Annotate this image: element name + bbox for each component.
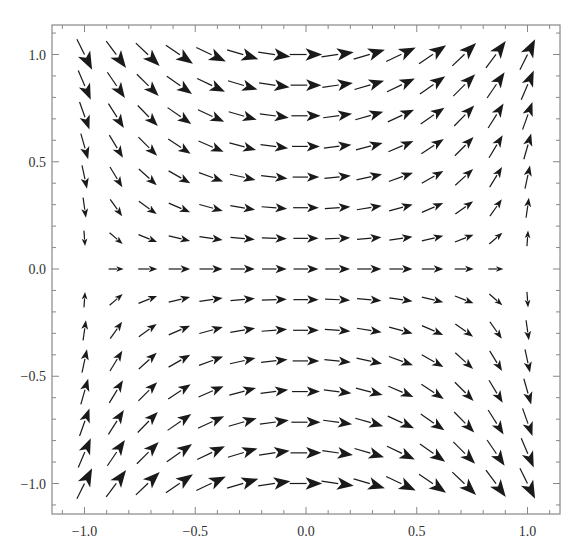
- vector-arrow: [262, 234, 287, 243]
- vector-arrow: [227, 48, 258, 60]
- vector-arrow: [455, 296, 474, 303]
- vector-arrow: [230, 173, 256, 182]
- vector-arrow: [523, 102, 533, 130]
- vector-arrow: [486, 470, 506, 497]
- vector-arrow: [82, 292, 88, 308]
- vector-arrow: [422, 326, 443, 335]
- vector-arrow: [230, 326, 255, 335]
- vector-arrow: [197, 79, 225, 92]
- vector-arrow: [420, 444, 445, 462]
- vector-arrow: [106, 470, 126, 497]
- vector-arrow: [81, 349, 89, 372]
- vector-arrow: [357, 234, 381, 242]
- vector-arrow: [455, 169, 473, 185]
- vector-field-plot: −1.0−0.50.00.51.0 −1.0−0.50.00.51.0: [0, 0, 581, 553]
- vector-arrow: [196, 477, 226, 491]
- vector-arrow: [489, 294, 502, 305]
- vector-arrow: [388, 110, 414, 122]
- vector-arrow: [452, 43, 476, 66]
- vector-arrow: [421, 384, 443, 399]
- vector-arrow: [169, 355, 191, 367]
- vector-arrow: [261, 356, 287, 365]
- vector-arrow: [389, 265, 412, 273]
- vector-arrow: [455, 324, 473, 337]
- vector-arrow: [227, 478, 258, 490]
- vector-arrow: [80, 379, 89, 405]
- vector-arrow: [228, 80, 258, 91]
- vector-arrow: [168, 384, 190, 399]
- vector-arrow: [293, 234, 318, 243]
- vector-arrow: [169, 265, 191, 272]
- y-axis-tick-labels: −1.0−0.50.00.51.0: [21, 48, 46, 492]
- y-tick-label: 1.0: [29, 48, 47, 63]
- vector-arrow: [389, 327, 413, 335]
- vector-arrow: [490, 167, 502, 187]
- vector-arrow: [81, 198, 88, 218]
- vector-arrow: [524, 320, 531, 340]
- vector-arrow: [355, 447, 385, 458]
- vector-arrow: [231, 265, 255, 273]
- vector-arrow: [198, 416, 224, 428]
- vector-arrow: [229, 111, 257, 121]
- vector-arrow: [455, 201, 473, 214]
- vector-arrow: [354, 49, 385, 61]
- vector-arrow: [355, 111, 383, 121]
- vector-arrow: [422, 355, 444, 367]
- vector-arrow: [169, 235, 190, 242]
- vector-arrow: [261, 173, 287, 182]
- vector-arrow: [324, 172, 350, 181]
- vector-arrow: [199, 296, 222, 304]
- vector-arrow: [169, 171, 191, 183]
- vector-arrow: [357, 203, 382, 212]
- vector-arrow: [487, 440, 505, 466]
- x-tick-label: 0.0: [297, 524, 315, 539]
- vector-arrow: [110, 294, 123, 305]
- vector-arrow: [524, 165, 532, 188]
- vector-arrow: [422, 265, 444, 272]
- vector-arrow: [139, 169, 157, 185]
- x-axis-tick-labels: −1.0−0.50.00.51.0: [72, 524, 536, 539]
- vector-arrow: [77, 468, 92, 498]
- x-tick-label: −0.5: [183, 524, 208, 539]
- vector-arrow: [139, 296, 158, 303]
- vector-arrow: [291, 110, 320, 121]
- vector-arrow: [487, 72, 505, 98]
- vector-arrow: [355, 80, 385, 91]
- vector-arrow: [199, 356, 223, 365]
- vector-arrow: [139, 324, 157, 337]
- vector-arrow: [106, 41, 126, 68]
- vector-arrow: [388, 141, 413, 152]
- vector-arrow: [455, 235, 474, 242]
- vector-arrow: [293, 326, 319, 335]
- vector-arrow: [168, 139, 190, 154]
- vector-arrow: [258, 48, 290, 61]
- vector-arrow: [523, 134, 532, 160]
- vector-arrow: [107, 440, 125, 466]
- vector-arrow: [488, 266, 503, 272]
- vector-arrow: [421, 139, 443, 154]
- vector-arrow: [325, 295, 350, 304]
- vector-arrow: [325, 203, 351, 212]
- vector-arrow: [108, 410, 123, 434]
- vector-arrow: [262, 265, 287, 274]
- vector-arrow: [77, 39, 92, 69]
- vector-arrow: [109, 266, 124, 272]
- vector-arrow: [387, 79, 415, 92]
- vector-arrow: [389, 234, 412, 242]
- vector-arrow: [453, 442, 475, 464]
- vector-arrow: [80, 134, 89, 160]
- vector-arrow: [324, 141, 352, 151]
- vector-arrow: [110, 199, 122, 216]
- vector-arrow: [293, 172, 320, 181]
- vector-arrow: [520, 468, 535, 498]
- vector-arrow: [521, 438, 534, 467]
- vector-arrow: [422, 296, 443, 303]
- vector-arrow: [292, 141, 320, 151]
- vector-arrow: [110, 233, 123, 244]
- vector-arrow: [422, 234, 443, 241]
- vector-arrow: [421, 414, 445, 430]
- vector-arrow: [420, 76, 445, 94]
- vector-arrow: [419, 45, 446, 63]
- vector-arrow: [387, 446, 415, 459]
- vector-arrow: [322, 447, 353, 459]
